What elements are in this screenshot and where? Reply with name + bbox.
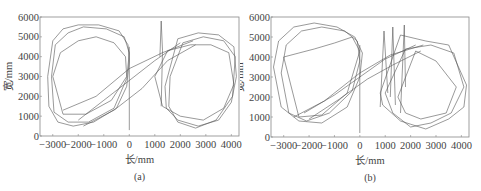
x-tick-label: 2000	[400, 140, 421, 151]
y-tick-label: 4000	[18, 51, 39, 62]
x-tick-label: 2000	[170, 139, 191, 150]
y-tick-label: 5000	[249, 32, 270, 43]
trajectory-line	[155, 45, 234, 120]
chart-panel-b: 0100020003000400050006000−3000−2000−1000…	[240, 0, 481, 191]
x-tick-label: −2000	[296, 140, 323, 151]
trajectory-line	[169, 37, 235, 128]
trajectory-line	[380, 31, 388, 107]
y-tick-label: 0	[265, 132, 270, 143]
y-tick-label: 6000	[18, 12, 39, 23]
trajectory-line	[401, 25, 406, 113]
plot-series	[274, 23, 467, 133]
x-tick-label: 4000	[221, 139, 242, 150]
x-tick-label: 3000	[195, 139, 216, 150]
trajectory-line	[53, 37, 127, 114]
trajectory-line	[52, 27, 130, 122]
x-tick-label: 0	[127, 139, 132, 150]
chart-panel-a: 0100020003000400050006000−3000−2000−1000…	[0, 0, 245, 191]
x-tick-label: −3000	[270, 140, 297, 151]
plot-frame	[40, 17, 239, 136]
y-tick-label: 6000	[249, 12, 270, 23]
x-tick-label: −1000	[321, 140, 348, 151]
x-tick-label: 0	[357, 140, 362, 151]
x-tick-label: 1000	[375, 140, 396, 151]
chart-b-svg: 0100020003000400050006000−3000−2000−1000…	[240, 0, 481, 191]
y-tick-label: 3000	[18, 71, 39, 82]
x-axis-label: 长/mm	[125, 154, 154, 165]
chart-a-svg: 0100020003000400050006000−3000−2000−1000…	[0, 0, 245, 191]
x-tick-label: −2000	[65, 139, 92, 150]
plot-series	[48, 21, 237, 130]
y-tick-label: 3000	[249, 72, 270, 83]
y-tick-label: 5000	[18, 31, 39, 42]
y-tick-label: 4000	[249, 52, 270, 63]
trajectory-line	[281, 27, 360, 121]
y-axis-label: 宽/mm	[240, 62, 245, 91]
trajectory-line	[165, 33, 236, 126]
y-tick-label: 2000	[249, 92, 270, 103]
trajectory-line	[309, 51, 421, 119]
figure-caption: (b)	[364, 172, 376, 184]
x-tick-label: −1000	[90, 139, 117, 150]
trajectory-line	[398, 51, 456, 119]
y-tick-label: 1000	[18, 111, 39, 122]
x-tick-label: 3000	[426, 140, 447, 151]
x-tick-label: 1000	[144, 139, 165, 150]
trajectory-line	[385, 45, 464, 127]
figure-caption: (a)	[134, 171, 145, 183]
x-tick-label: 4000	[451, 140, 472, 151]
trajectory-line	[83, 45, 195, 126]
y-tick-label: 2000	[18, 91, 39, 102]
trajectory-line	[284, 37, 360, 117]
y-axis-label: 宽/mm	[2, 62, 14, 91]
y-tick-label: 0	[34, 131, 39, 142]
x-tick-label: −3000	[39, 139, 66, 150]
trajectory-line	[380, 35, 466, 129]
y-tick-label: 1000	[249, 112, 270, 123]
x-axis-label: 长/mm	[355, 155, 384, 166]
